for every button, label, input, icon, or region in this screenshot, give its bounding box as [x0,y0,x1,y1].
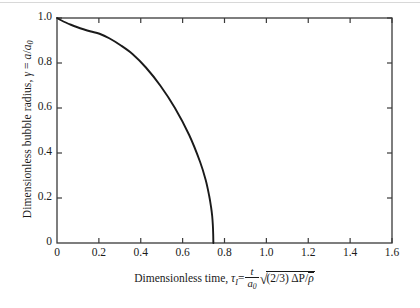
x-axis-ticks [99,18,392,243]
y-tick-label-1: 0.2 [18,190,52,202]
y-tick-label-4: 0.8 [18,55,52,67]
plot-area [0,0,420,308]
x-tick-label-3: 0.6 [166,246,200,258]
axes-frame [57,18,392,243]
data-curve-rayleigh-collapse [57,18,213,243]
x-tick-label-1: 0.2 [82,246,116,258]
x-tick-label-8: 1.6 [375,246,409,258]
y-tick-label-2: 0.4 [18,145,52,157]
y-axis-ticks [57,18,392,198]
figure-container: Dimensionless bubble radius, γ = a/a0 Di… [0,0,420,308]
y-tick-label-5: 1.0 [18,10,52,22]
x-tick-label-7: 1.4 [333,246,367,258]
x-tick-label-0: 0 [40,246,74,258]
x-tick-label-2: 0.4 [124,246,158,258]
y-tick-label-3: 0.6 [18,100,52,112]
y-tick-label-0: 0 [18,235,52,247]
x-tick-label-5: 1.0 [249,246,283,258]
x-tick-label-6: 1.2 [291,246,325,258]
axes-border [57,18,392,243]
x-tick-label-4: 0.8 [208,246,242,258]
